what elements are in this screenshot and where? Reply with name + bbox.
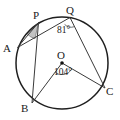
- center-point-dot: [60, 61, 64, 65]
- point-label-A: A: [3, 43, 11, 54]
- angle-label-at-Q: 81°: [57, 26, 70, 36]
- point-label-P: P: [33, 10, 39, 21]
- point-label-Q: Q: [66, 5, 74, 16]
- point-label-O: O: [57, 50, 65, 61]
- point-label-B: B: [21, 103, 28, 114]
- geometry-figure: A P Q B C O 81° 104°: [0, 0, 120, 120]
- angle-label-at-O: 104°: [54, 68, 72, 78]
- point-label-C: C: [106, 86, 113, 97]
